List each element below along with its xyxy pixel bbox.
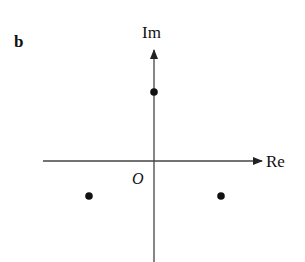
- point-lower-left: [85, 192, 93, 200]
- panel-label: b: [14, 32, 23, 51]
- imag-axis-label: Im: [142, 23, 161, 42]
- real-axis-label: Re: [266, 152, 285, 171]
- origin-label: O: [132, 170, 144, 187]
- point-top: [150, 88, 158, 96]
- complex-plane-diagram: b Im Re O: [0, 0, 305, 262]
- point-lower-right: [217, 192, 225, 200]
